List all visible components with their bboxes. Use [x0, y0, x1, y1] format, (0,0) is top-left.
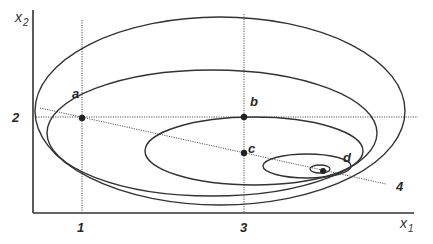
tick-x2-2: 2 [11, 110, 20, 125]
x-axis-label: x1 [399, 215, 414, 234]
optimization-contour-diagram: a b c d 4 1 3 2 x2 x1 [0, 0, 433, 244]
y-axis-label: x2 [14, 9, 29, 28]
point-d [320, 168, 326, 174]
tick-x1-3: 3 [240, 220, 248, 235]
label-c: c [248, 141, 256, 156]
tick-x1-1: 1 [77, 220, 84, 235]
label-line-4: 4 [395, 179, 404, 194]
label-d: d [343, 150, 352, 165]
contour-1 [35, 17, 405, 205]
point-b [241, 114, 247, 120]
label-a: a [72, 86, 79, 101]
point-a [79, 115, 85, 121]
point-c [241, 150, 247, 156]
label-b: b [250, 94, 258, 109]
contour-4 [263, 154, 351, 178]
diagram: a b c d 4 1 3 2 x2 x1 [0, 0, 433, 244]
